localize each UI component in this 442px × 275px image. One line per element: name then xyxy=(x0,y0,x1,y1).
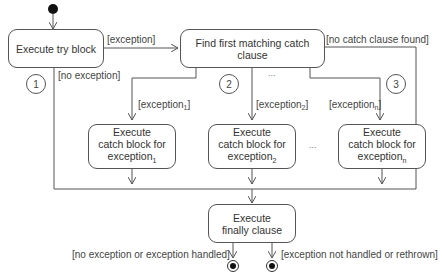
catch1-sub: 1 xyxy=(153,157,157,164)
try-block-node: Execute try block xyxy=(8,29,104,68)
catch2-line3: exception xyxy=(228,150,273,162)
guard-exception: [exception] xyxy=(107,34,155,46)
marker-3: 3 xyxy=(386,74,406,94)
catchn-line3: exception xyxy=(358,150,403,162)
guard-exception1: [exception1] xyxy=(138,99,190,114)
try-block-label: Execute try block xyxy=(16,43,96,55)
guard-no-exception: [no exception] xyxy=(58,70,120,82)
find-catch-label: Find first matching catch clause xyxy=(181,37,324,61)
catchn-line2: catch block for xyxy=(348,138,416,150)
marker-1: 1 xyxy=(26,74,46,94)
catchn-sub: n xyxy=(403,157,407,164)
catch1-line2: catch block for xyxy=(98,138,166,150)
finally-line1: Execute xyxy=(222,212,282,224)
find-catch-node: Find first matching catch clause xyxy=(180,29,325,68)
initial-node-icon xyxy=(48,4,58,14)
finally-node: Execute finally clause xyxy=(208,204,296,243)
catch2-node: Execute catch block for exception2 xyxy=(208,124,296,169)
marker-2: 2 xyxy=(219,74,239,94)
ellipsis-top: ... xyxy=(268,68,276,78)
catchn-line1: Execute xyxy=(348,126,416,138)
finally-line2: finally clause xyxy=(222,224,282,236)
guard-handled: [no exception or exception handled] xyxy=(72,249,230,261)
catch2-sub: 2 xyxy=(273,157,277,164)
catch1-line3: exception xyxy=(108,150,153,162)
guard-not-handled: [exception not handled or rethrown] xyxy=(281,249,438,261)
catch2-line2: catch block for xyxy=(218,138,286,150)
catch2-line1: Execute xyxy=(218,126,286,138)
catch1-node: Execute catch block for exception1 xyxy=(88,124,176,169)
catchn-node: Execute catch block for exceptionn xyxy=(338,124,426,169)
guard-no-catch-found: [no catch clause found] xyxy=(326,34,429,46)
ellipsis-middle: ... xyxy=(309,140,317,150)
guard-exception2: [exception2] xyxy=(256,99,308,114)
catch1-line1: Execute xyxy=(98,126,166,138)
guard-exceptionn: [exceptionn] xyxy=(329,99,381,114)
